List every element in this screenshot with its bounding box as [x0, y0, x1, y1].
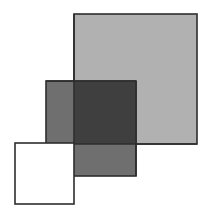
- overlap-region: [74, 81, 136, 144]
- overlapping-squares-diagram: [0, 0, 210, 216]
- small-square: [15, 143, 74, 204]
